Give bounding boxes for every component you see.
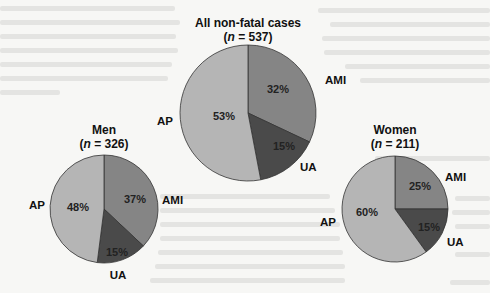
pct-ap-men: 48% bbox=[67, 201, 89, 213]
label-ap-all: AP bbox=[157, 115, 173, 127]
chart-title-all: All non-fatal cases bbox=[195, 16, 301, 30]
label-ua-all: UA bbox=[300, 161, 317, 173]
label-ami-women: AMI bbox=[445, 171, 466, 183]
chart-n-women: (n = 211) bbox=[371, 137, 419, 151]
chart-n-all: (n = 537) bbox=[223, 30, 272, 44]
label-ua-women: UA bbox=[447, 236, 464, 248]
pct-ua-women: 15% bbox=[418, 221, 440, 233]
pct-ap-all: 53% bbox=[213, 110, 235, 122]
label-ami-all: AMI bbox=[325, 74, 346, 86]
pie-chart-men: Men (n = 326) 37% 15% 48% AMI UA AP bbox=[29, 123, 183, 281]
pct-ua-all: 15% bbox=[273, 140, 295, 152]
pct-ami-all: 32% bbox=[267, 83, 289, 95]
label-ami-men: AMI bbox=[162, 194, 183, 206]
pie-charts-figure: All non-fatal cases (n = 537) 32% 15% 53… bbox=[0, 0, 490, 293]
chart-title-men: Men bbox=[92, 123, 116, 137]
pie-chart-all: All non-fatal cases (n = 537) 32% 15% 53… bbox=[157, 16, 346, 181]
chart-title-women: Women bbox=[373, 123, 416, 137]
label-ap-men: AP bbox=[29, 199, 45, 211]
pct-ap-women: 60% bbox=[356, 206, 378, 218]
pct-ua-men: 15% bbox=[106, 246, 128, 258]
label-ua-men: UA bbox=[110, 269, 127, 281]
label-ap-women: AP bbox=[320, 216, 336, 228]
pct-ami-women: 25% bbox=[409, 180, 431, 192]
pct-ami-men: 37% bbox=[124, 193, 146, 205]
chart-n-men: (n = 326) bbox=[79, 137, 128, 151]
pie-chart-women: Women (n = 211) 25% 15% 60% AMI UA AP bbox=[320, 123, 466, 262]
